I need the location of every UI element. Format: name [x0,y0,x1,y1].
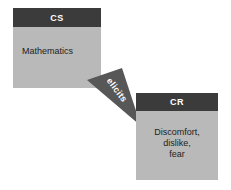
node-cr-body-line-2: dislike, [136,138,218,149]
node-cr-body-line-1: Discomfort, [136,127,218,138]
arrow-label-elicits: elicits [98,68,135,112]
node-cr-header: CR [136,93,218,111]
node-cr-body: Discomfort, dislike, fear [136,111,218,180]
node-cs: CS Mathematics [13,8,101,88]
node-cr: CR Discomfort, dislike, fear [136,93,218,180]
node-cs-header: CS [13,8,101,27]
diagram-canvas: CS Mathematics elicits CR Discomfort, di… [0,0,231,190]
node-cs-body: Mathematics [13,27,101,88]
node-cr-body-line-3: fear [136,149,218,160]
